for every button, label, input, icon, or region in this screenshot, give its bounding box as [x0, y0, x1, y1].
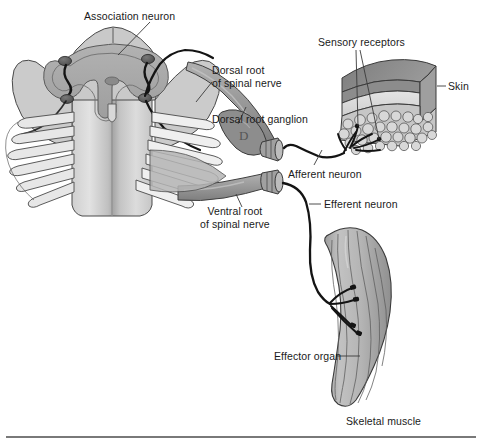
ganglion-marking: D: [239, 128, 248, 143]
label-efferent-neuron: Efferent neuron: [324, 198, 398, 211]
label-dorsal-root-line2: of spinal nerve: [212, 77, 282, 89]
label-sensory-receptors: Sensory receptors: [318, 36, 405, 49]
label-dorsal-root-ganglion: Dorsal root ganglion: [212, 113, 308, 126]
central-canal: [105, 77, 119, 85]
neuron-cell-body: [142, 54, 155, 63]
afferent-nerve-fiber: [284, 145, 344, 158]
dorsal-root-cut-end: [260, 138, 283, 161]
label-skeletal-muscle: Skeletal muscle: [346, 415, 421, 428]
neuron-cell-body: [61, 95, 74, 104]
reflex-arc-figure: D: [0, 0, 482, 443]
skin-block: [338, 60, 437, 155]
ventral-fissure-notch: [108, 104, 116, 122]
receptor-terminal: [355, 124, 359, 128]
label-dorsal-root-line1: Dorsal root: [212, 64, 264, 76]
label-association-neuron: Association neuron: [84, 10, 175, 23]
label-ventral-root-line2: of spinal nerve: [200, 218, 270, 230]
label-dorsal-root-of-spinal-nerve: Dorsal root of spinal nerve: [212, 64, 282, 89]
label-ventral-root-line1: Ventral root: [207, 205, 262, 217]
ventral-root-cut-end: [261, 170, 283, 194]
label-skin: Skin: [448, 80, 469, 93]
efferent-nerve-fiber: [283, 183, 330, 304]
label-ventral-root-of-spinal-nerve: Ventral root of spinal nerve: [200, 205, 270, 230]
neuron-cell-body: [59, 56, 72, 65]
label-afferent-neuron: Afferent neuron: [288, 168, 362, 181]
skeletal-muscle: [325, 228, 392, 407]
label-effector-organ: Effector organ: [274, 350, 341, 363]
